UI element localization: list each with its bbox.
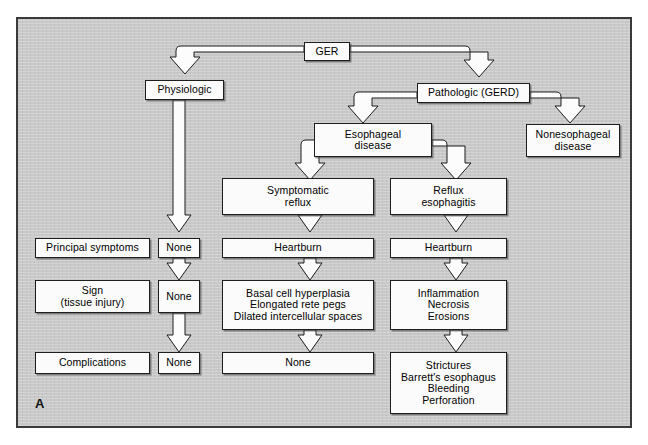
node-physiologic-label: Physiologic xyxy=(149,84,220,96)
panel-letter: A xyxy=(35,396,45,411)
node-ger-label: GER xyxy=(308,46,346,58)
node-physiologic-complications-none[interactable]: None xyxy=(158,352,200,374)
row-label-complications: Complications xyxy=(35,352,150,374)
node-symptomatic-sign[interactable]: Basal cell hyperplasia Elongated rete pe… xyxy=(222,280,374,330)
row-label-sign-line2: (tissue injury) xyxy=(39,297,146,309)
node-physiologic-sign-none-label: None xyxy=(162,291,196,303)
node-physiologic-complications-none-label: None xyxy=(162,357,196,369)
node-physiologic-symptoms-none[interactable]: None xyxy=(158,238,200,258)
node-esophagitis-complications-line4: Perforation xyxy=(394,395,503,407)
node-symptomatic-reflux-line2: reflux xyxy=(226,197,370,209)
node-symptomatic-symptoms-heartburn-label: Heartburn xyxy=(226,242,370,254)
edge-heartburn-to-inflammation xyxy=(444,258,468,280)
node-symptomatic-reflux-line1: Symptomatic xyxy=(226,185,370,197)
node-symptomatic-complications-none-label: None xyxy=(226,357,370,369)
node-reflux-esophagitis[interactable]: Reflux esophagitis xyxy=(390,178,507,215)
node-pathologic-gerd-label: Pathologic (GERD) xyxy=(421,87,526,99)
node-physiologic[interactable]: Physiologic xyxy=(145,80,224,100)
edge-heartburn-to-basal-cell xyxy=(298,258,322,280)
node-nonesophageal-disease-line1: Nonesophageal xyxy=(530,129,616,141)
edge-pathologic-to-nonesophageal xyxy=(530,92,585,123)
node-esophagitis-sign[interactable]: Inflammation Necrosis Erosions xyxy=(390,280,507,330)
flowchart-canvas: GER Physiologic Pathologic (GERD) Esopha… xyxy=(18,19,630,426)
node-symptomatic-symptoms-heartburn[interactable]: Heartburn xyxy=(222,238,374,258)
panel-letter-text: A xyxy=(35,396,45,411)
node-esophageal-disease[interactable]: Esophageal disease xyxy=(314,123,432,157)
edge-symptomatic-to-heartburn xyxy=(298,215,322,232)
node-pathologic-gerd[interactable]: Pathologic (GERD) xyxy=(417,83,530,103)
node-esophageal-disease-line2: disease xyxy=(318,140,428,152)
node-esophagitis-complications[interactable]: Strictures Barrett's esophagus Bleeding … xyxy=(390,352,507,414)
node-esophagitis-symptoms-heartburn-label: Heartburn xyxy=(394,242,503,254)
row-label-principal-symptoms: Principal symptoms xyxy=(35,238,150,258)
edge-basal-cell-to-none xyxy=(298,330,322,352)
edge-none-symptoms-to-none-sign xyxy=(167,258,191,280)
node-reflux-esophagitis-line1: Reflux xyxy=(394,185,503,197)
node-nonesophageal-disease-line2: disease xyxy=(530,141,616,153)
node-reflux-esophagitis-line2: esophagitis xyxy=(394,197,503,209)
row-label-sign-line1: Sign xyxy=(39,285,146,297)
node-esophagitis-complications-line1: Strictures xyxy=(394,360,503,372)
edge-physiologic-to-none-symptoms xyxy=(167,100,191,232)
edge-esophagitis-to-heartburn xyxy=(444,215,468,232)
edge-inflammation-to-strictures xyxy=(444,330,468,352)
row-label-sign: Sign (tissue injury) xyxy=(35,280,150,313)
edge-ger-to-pathologic xyxy=(350,46,494,77)
node-symptomatic-reflux[interactable]: Symptomatic reflux xyxy=(222,178,374,215)
node-esophagitis-symptoms-heartburn[interactable]: Heartburn xyxy=(390,238,507,258)
edge-none-sign-to-none-complications xyxy=(167,313,191,352)
node-symptomatic-complications-none[interactable]: None xyxy=(222,352,374,374)
node-nonesophageal-disease[interactable]: Nonesophageal disease xyxy=(526,124,620,157)
figure-root: GER Physiologic Pathologic (GERD) Esopha… xyxy=(0,0,648,445)
node-physiologic-symptoms-none-label: None xyxy=(162,242,196,254)
node-esophagitis-sign-line3: Erosions xyxy=(394,311,503,323)
node-ger[interactable]: GER xyxy=(304,42,350,61)
node-physiologic-sign-none[interactable]: None xyxy=(158,280,200,313)
node-esophagitis-complications-line3: Bleeding xyxy=(394,383,503,395)
figure-panel: GER Physiologic Pathologic (GERD) Esopha… xyxy=(16,17,632,428)
row-label-complications-text: Complications xyxy=(39,357,146,369)
edge-pathologic-to-esophageal xyxy=(348,92,417,123)
node-symptomatic-sign-line3: Dilated intercellular spaces xyxy=(226,311,370,323)
edge-esophageal-to-esophagitis xyxy=(432,140,471,180)
edge-ger-to-physiologic xyxy=(170,46,304,74)
row-label-principal-symptoms-text: Principal symptoms xyxy=(39,242,146,254)
